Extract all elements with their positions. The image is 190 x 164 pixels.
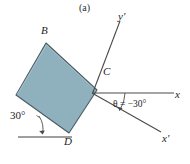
- vertex-label-c: C: [103, 66, 110, 77]
- base-angle-30-arrowhead: [39, 131, 45, 135]
- theta-angle-label: θ = −30°: [113, 100, 146, 110]
- square-block-shape: [16, 43, 97, 133]
- subfigure-label: (a): [79, 3, 90, 13]
- y-prime-axis-label: y': [118, 11, 125, 22]
- figure-container: (a) B C D y' x x' θ = −30° 30°: [0, 0, 190, 164]
- vertex-label-b: B: [41, 25, 48, 36]
- y-prime-axis-line: [93, 21, 121, 94]
- base-angle-30-label: 30°: [10, 110, 25, 121]
- x-prime-axis-label: x': [162, 133, 169, 144]
- x-axis-label: x: [175, 89, 180, 100]
- vertex-label-d: D: [64, 136, 72, 147]
